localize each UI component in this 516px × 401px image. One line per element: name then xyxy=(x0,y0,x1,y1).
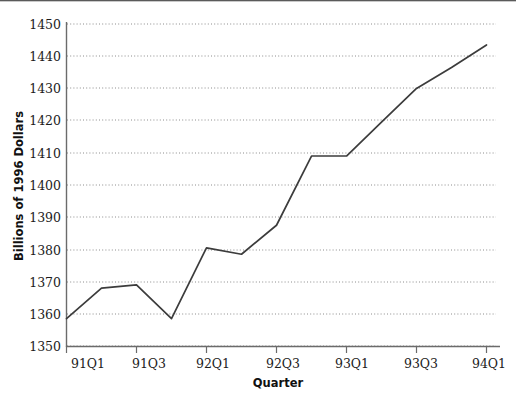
y-tick-label-1440: 1440 xyxy=(29,49,61,64)
y-tick-labels: 1450 1440 1430 1420 1410 1400 1390 1380 … xyxy=(29,17,61,354)
x-tick-label-93Q3: 93Q3 xyxy=(404,356,438,371)
data-series-line xyxy=(67,45,487,319)
gridlines xyxy=(67,24,496,346)
y-tick-label-1420: 1420 xyxy=(29,113,61,128)
y-tick-label-1350: 1350 xyxy=(29,339,61,354)
x-tick-label-92Q3: 92Q3 xyxy=(266,356,300,371)
y-tick-label-1430: 1430 xyxy=(29,81,61,96)
y-tick-label-1410: 1410 xyxy=(29,146,61,161)
x-tick-label-94Q1: 94Q1 xyxy=(472,356,506,371)
y-axis-title: Billions of 1996 Dollars xyxy=(12,111,26,261)
chart-screenshot: 1450 1440 1430 1420 1410 1400 1390 1380 … xyxy=(0,0,516,401)
y-tick-label-1360: 1360 xyxy=(29,307,61,322)
y-tick-label-1450: 1450 xyxy=(29,17,61,32)
line-chart: 1450 1440 1430 1420 1410 1400 1390 1380 … xyxy=(0,0,516,401)
y-tick-label-1390: 1390 xyxy=(29,210,61,225)
x-tick-label-93Q1: 93Q1 xyxy=(335,356,369,371)
y-tick-label-1380: 1380 xyxy=(29,243,61,258)
y-tick-label-1400: 1400 xyxy=(29,178,61,193)
y-tick-label-1370: 1370 xyxy=(29,275,61,290)
x-tick-label-91Q3: 91Q3 xyxy=(132,356,166,371)
x-tick-label-92Q1: 92Q1 xyxy=(196,356,230,371)
x-tick-labels: 91Q1 91Q3 92Q1 92Q3 93Q1 93Q3 94Q1 xyxy=(71,356,506,371)
x-tick-label-91Q1: 91Q1 xyxy=(71,356,105,371)
x-axis-title: Quarter xyxy=(253,376,304,390)
